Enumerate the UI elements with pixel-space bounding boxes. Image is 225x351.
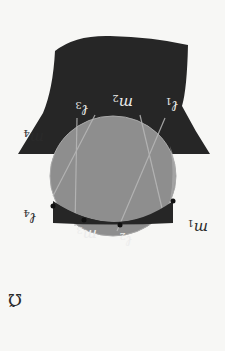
point-m3 (82, 218, 87, 223)
label-l4: ℓ4 (23, 208, 36, 227)
label-m3: m3 (76, 225, 97, 244)
domain-diagram: ℓ1 m2 ℓ3 m4 ℓ4 m3 ℓ2 m1 Ω̃ (0, 0, 225, 351)
label-omega-tilde: Ω̃ (8, 290, 22, 310)
point-l4 (51, 204, 56, 209)
rotated-figure (18, 36, 210, 236)
point-m1 (171, 199, 176, 204)
label-m1: m1 (187, 218, 208, 237)
figure-canvas: ℓ1 m2 ℓ3 m4 ℓ4 m3 ℓ2 m1 Ω̃ (0, 0, 225, 351)
label-l2: ℓ2 (119, 231, 132, 250)
point-l2 (118, 223, 123, 228)
